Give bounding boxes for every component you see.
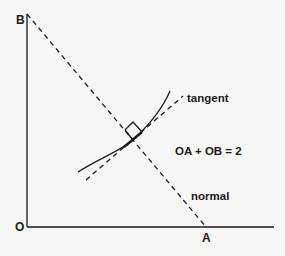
label-normal: normal [191, 190, 229, 202]
right-angle-marker-side [125, 130, 133, 140]
label-o: O [15, 220, 24, 234]
curve [78, 91, 170, 172]
label-tangent: tangent [187, 92, 229, 104]
label-a: A [202, 231, 211, 245]
label-b: B [16, 13, 25, 27]
right-angle-marker [125, 122, 142, 132]
label-equation: OA + OB = 2 [175, 145, 242, 157]
normal-line [27, 14, 206, 227]
normal-tangent-diagram: B O A tangent OA + OB = 2 normal [0, 0, 285, 256]
